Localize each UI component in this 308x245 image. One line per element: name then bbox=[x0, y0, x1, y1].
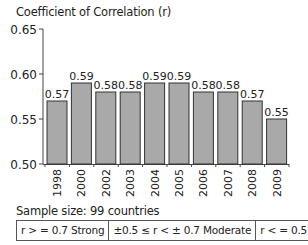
x-tick-label: 2008 bbox=[246, 169, 259, 197]
bar-value-label: 0.58 bbox=[118, 79, 143, 92]
y-tick-label: 0.50 bbox=[10, 158, 37, 172]
y-tick-label: 0.65 bbox=[10, 23, 37, 37]
bar-value-label: 0.59 bbox=[142, 70, 167, 83]
strength-legend: r > = 0.7 Strong ±0.5 ≤ r < ± 0.7 Modera… bbox=[16, 220, 308, 241]
x-tick-label: 2002 bbox=[100, 169, 113, 197]
bar-2005 bbox=[169, 83, 189, 164]
bar-chart: 0.650.600.550.500.5719980.5920000.582002… bbox=[0, 0, 308, 205]
x-tick-label: 1998 bbox=[51, 169, 64, 197]
y-tick-label: 0.60 bbox=[10, 68, 37, 82]
bar-value-label: 0.59 bbox=[69, 70, 94, 83]
bar-2000 bbox=[71, 83, 91, 164]
legend-strong: r > = 0.7 Strong bbox=[17, 221, 108, 240]
legend-moderate: ±0.5 ≤ r < ± 0.7 Moderate bbox=[108, 221, 255, 240]
bar-value-label: 0.57 bbox=[45, 88, 70, 101]
y-tick-label: 0.55 bbox=[10, 113, 37, 127]
bar-2009 bbox=[267, 119, 287, 164]
x-tick-label: 2006 bbox=[197, 169, 210, 197]
x-tick-label: 2004 bbox=[149, 169, 162, 197]
bar-1998 bbox=[47, 101, 67, 164]
bar-2008 bbox=[242, 101, 262, 164]
bar-2004 bbox=[145, 83, 165, 164]
x-tick-label: 2007 bbox=[222, 169, 235, 197]
legend-weak: r < = 0.5 Weak bbox=[255, 221, 308, 240]
bar-2002 bbox=[96, 92, 116, 164]
bar-value-label: 0.55 bbox=[264, 106, 289, 119]
bar-value-label: 0.57 bbox=[240, 88, 265, 101]
bar-value-label: 0.58 bbox=[191, 79, 216, 92]
x-tick-label: 2005 bbox=[173, 169, 186, 197]
bar-2003 bbox=[120, 92, 140, 164]
bar-2007 bbox=[218, 92, 238, 164]
x-tick-label: 2003 bbox=[124, 169, 137, 197]
x-tick-label: 2009 bbox=[271, 169, 284, 197]
bar-2006 bbox=[193, 92, 213, 164]
bar-value-label: 0.58 bbox=[94, 79, 119, 92]
bar-value-label: 0.59 bbox=[167, 70, 192, 83]
sample-size-note: Sample size: 99 countries bbox=[16, 204, 159, 218]
bar-value-label: 0.58 bbox=[216, 79, 241, 92]
x-tick-label: 2000 bbox=[75, 169, 88, 197]
